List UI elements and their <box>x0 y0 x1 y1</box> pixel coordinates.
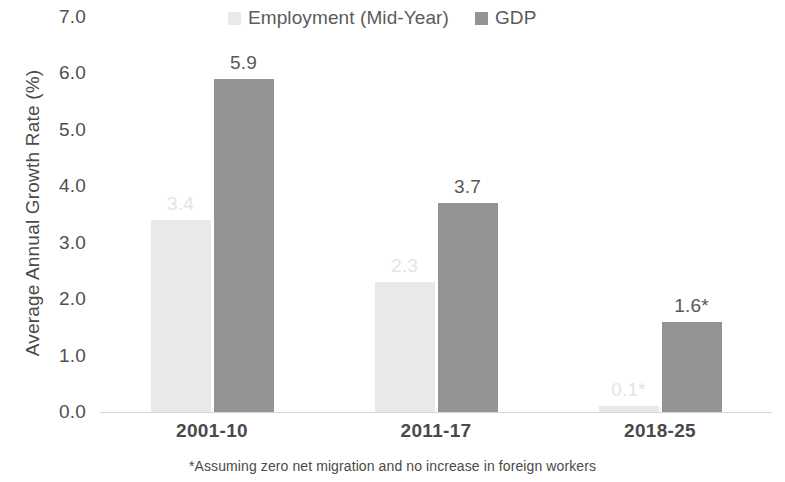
bar-value-label: 1.6* <box>674 295 709 317</box>
bar-value-label: 3.7 <box>454 176 481 198</box>
y-axis-tick-4-0: 4.0 <box>16 175 86 197</box>
bar-value-label: 3.4 <box>167 193 194 215</box>
bar-gdp-2018-25[interactable] <box>662 322 722 412</box>
bar-value-label: 2.3 <box>391 255 418 277</box>
bar-employment-mid-year-2011-17[interactable] <box>375 282 435 412</box>
x-axis-label-2001-10: 2001-10 <box>176 420 248 442</box>
y-axis-tick-3-0: 3.0 <box>16 232 86 254</box>
y-axis-tick-labels: 7.06.05.04.03.02.01.00.0 <box>8 17 86 412</box>
chart-footnote: *Assuming zero net migration and no incr… <box>0 458 785 474</box>
bar-employment-mid-year-2018-25[interactable] <box>599 406 659 412</box>
bar-value-label: 5.9 <box>230 52 257 74</box>
x-axis-baseline <box>100 412 772 413</box>
x-axis-label-2011-17: 2011-17 <box>401 420 472 442</box>
bar-gdp-2001-10[interactable] <box>214 79 274 412</box>
bar-gdp-2011-17[interactable] <box>438 203 498 412</box>
bar-value-label: 0.1* <box>611 379 646 401</box>
plot-area: 3.45.92.33.70.1*1.6* <box>100 17 772 412</box>
y-axis-tick-0-0: 0.0 <box>16 401 86 423</box>
x-axis-label-2018-25: 2018-25 <box>624 420 696 442</box>
y-axis-tick-7-0: 7.0 <box>16 6 86 28</box>
bar-chart: Employment (Mid-Year) GDP Average Annual… <box>0 0 785 482</box>
y-axis-tick-2-0: 2.0 <box>16 288 86 310</box>
y-axis-tick-1-0: 1.0 <box>16 345 86 367</box>
y-axis-tick-6-0: 6.0 <box>16 62 86 84</box>
y-axis-tick-5-0: 5.0 <box>16 119 86 141</box>
bar-employment-mid-year-2001-10[interactable] <box>151 220 211 412</box>
